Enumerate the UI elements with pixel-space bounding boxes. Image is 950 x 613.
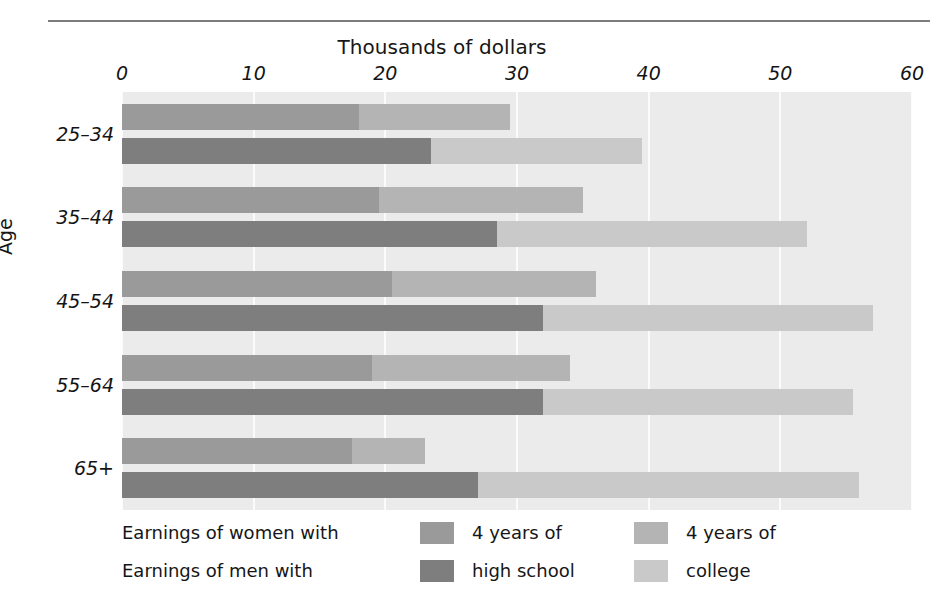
x-tick-label: 0 xyxy=(116,62,128,84)
legend-swatch-men-high-school xyxy=(420,560,454,582)
bar-women xyxy=(122,104,510,130)
bar-segment-women-college xyxy=(379,187,583,213)
x-tick-label: 30 xyxy=(505,62,529,84)
x-tick-label: 20 xyxy=(373,62,397,84)
bar-women xyxy=(122,355,570,381)
legend-swatch-women-college xyxy=(634,522,668,544)
bar-segment-men-college xyxy=(543,305,872,331)
bar-segment-women-college xyxy=(372,355,570,381)
legend-row-women: Earnings of women with 4 years of 4 year… xyxy=(122,520,912,550)
bar-segment-men-college xyxy=(431,138,642,164)
legend-swatch-women-high-school xyxy=(420,522,454,544)
bar-segment-women-high-school xyxy=(122,438,352,464)
bar-segment-men-high-school xyxy=(122,138,431,164)
bar-men xyxy=(122,305,873,331)
legend-swatch-men-college xyxy=(634,560,668,582)
bar-men xyxy=(122,221,807,247)
legend-row-men: Earnings of men with high school college xyxy=(122,558,912,588)
y-category-label: 45–54 xyxy=(8,290,114,312)
top-divider-rule xyxy=(48,20,930,22)
legend-key-high-school-line1: 4 years of xyxy=(472,522,562,543)
x-axis-title: Thousands of dollars xyxy=(0,35,950,59)
bar-segment-men-college xyxy=(478,472,860,498)
bar-segment-women-high-school xyxy=(122,104,359,130)
bar-segment-men-high-school xyxy=(122,221,497,247)
x-axis-tick-labels: 0102030405060 xyxy=(0,62,950,88)
bar-women xyxy=(122,438,425,464)
bar-segment-men-college xyxy=(497,221,806,247)
y-category-label: 25–34 xyxy=(8,123,114,145)
figure: Thousands of dollars 0102030405060 Age 2… xyxy=(0,0,950,613)
bar-men xyxy=(122,389,853,415)
x-axis-title-text: Thousands of dollars xyxy=(337,35,546,59)
y-category-label: 35–44 xyxy=(8,206,114,228)
x-tick-label: 60 xyxy=(900,62,924,84)
legend-key-college-line2: college xyxy=(686,560,751,581)
bar-women xyxy=(122,271,596,297)
gridline xyxy=(779,92,781,510)
bar-segment-men-college xyxy=(543,389,852,415)
bar-segment-men-high-school xyxy=(122,472,478,498)
x-tick-label: 40 xyxy=(637,62,661,84)
legend-key-college-line1: 4 years of xyxy=(686,522,776,543)
bar-segment-women-college xyxy=(392,271,596,297)
y-category-label: 65+ xyxy=(8,457,114,479)
x-tick-label: 50 xyxy=(768,62,792,84)
plot-area xyxy=(122,92,912,510)
bar-men xyxy=(122,472,859,498)
gridline xyxy=(911,92,912,510)
bar-segment-women-college xyxy=(352,438,424,464)
legend-label-men: Earnings of men with xyxy=(122,560,313,581)
bar-women xyxy=(122,187,583,213)
bar-segment-men-high-school xyxy=(122,389,543,415)
gridline xyxy=(648,92,650,510)
bar-men xyxy=(122,138,642,164)
legend: Earnings of women with 4 years of 4 year… xyxy=(122,520,912,592)
bar-segment-women-high-school xyxy=(122,187,379,213)
x-tick-label: 10 xyxy=(242,62,266,84)
legend-key-high-school-line2: high school xyxy=(472,560,575,581)
bar-segment-women-high-school xyxy=(122,355,372,381)
y-category-label: 55–64 xyxy=(8,374,114,396)
bar-segment-women-high-school xyxy=(122,271,392,297)
y-axis-category-labels: 25–3435–4445–5455–6465+ xyxy=(0,92,114,510)
bar-segment-women-college xyxy=(359,104,510,130)
legend-label-women: Earnings of women with xyxy=(122,522,339,543)
bar-segment-men-high-school xyxy=(122,305,543,331)
